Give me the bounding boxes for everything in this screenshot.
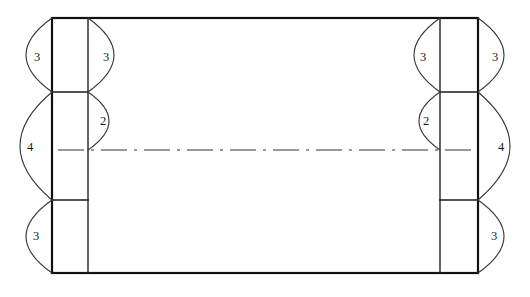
dimension-label-left-outer-top: 3 xyxy=(34,50,40,64)
drawing-canvas: 3324333243 xyxy=(0,0,530,297)
dimension-label-left-outer-bottom: 3 xyxy=(33,229,39,243)
dimension-label-right-outer-middle: 4 xyxy=(498,140,505,154)
drawing-background xyxy=(0,0,530,297)
dimension-label-right-outer-bottom: 3 xyxy=(491,229,497,243)
dimension-label-right-inner-top: 3 xyxy=(420,50,426,64)
dimension-label-left-outer-middle: 4 xyxy=(27,140,34,154)
technical-drawing-svg: 3324333243 xyxy=(0,0,530,297)
dimension-label-left-inner-top: 3 xyxy=(103,50,109,64)
dimension-label-right-inner-middle: 2 xyxy=(423,114,429,128)
dimension-label-left-inner-middle: 2 xyxy=(100,114,106,128)
dimension-label-right-outer-top: 3 xyxy=(492,50,498,64)
